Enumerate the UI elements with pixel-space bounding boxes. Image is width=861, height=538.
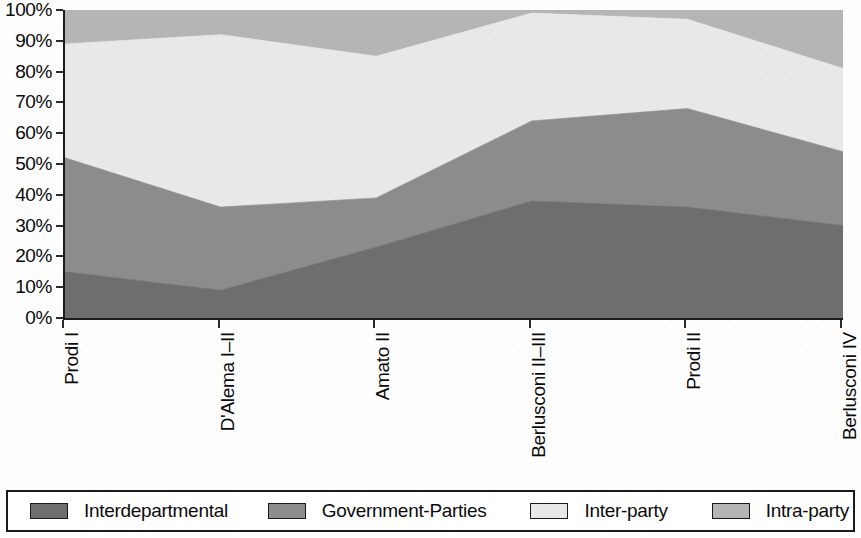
x-axis-tick-label: Berlusconi IV (833, 332, 855, 440)
stacked-area-chart: 0%10%20%30%40%50%60%70%80%90%100% Prodi … (0, 0, 861, 485)
x-axis-tick-mark (529, 320, 531, 328)
y-axis-tick-label: 30% (15, 215, 52, 237)
y-axis-tick-label: 100% (5, 0, 52, 21)
y-axis-tick-label: 10% (15, 276, 52, 298)
y-axis-tick-mark (56, 163, 63, 165)
y-axis-tick-label: 70% (15, 91, 52, 113)
x-axis-tick-mark (840, 320, 842, 328)
legend-label: Inter-party (584, 500, 667, 522)
x-axis-tick-label-text: Amato II (372, 332, 394, 400)
legend-swatch-icon (712, 503, 750, 519)
x-axis-tick-label: Berlusconi II–III (522, 332, 544, 458)
x-axis-tick-mark (373, 320, 375, 328)
y-axis-tick-mark (56, 194, 63, 196)
y-axis-tick-mark (56, 317, 63, 319)
x-axis-tick-mark (684, 320, 686, 328)
legend-label: Interdepartmental (84, 500, 228, 522)
y-axis-tick-label: 80% (15, 61, 52, 83)
x-axis-tick-label-text: Prodi I (61, 332, 83, 385)
y-axis-tick-mark (56, 9, 63, 11)
y-axis-tick-label: 50% (15, 153, 52, 175)
x-axis-tick-label: Prodi II (677, 332, 699, 390)
x-axis-tick-mark (62, 320, 64, 328)
x-axis-tick-label-text: Berlusconi IV (839, 332, 861, 440)
area-series-svg (65, 10, 843, 318)
y-axis: 0%10%20%30%40%50%60%70%80%90%100% (0, 0, 62, 330)
y-axis-tick-label: 0% (25, 307, 52, 329)
x-axis-tick-label-text: Berlusconi II–III (528, 332, 550, 458)
legend-label: Government-Parties (322, 500, 487, 522)
legend-swatch-icon (268, 503, 306, 519)
legend-item-interdepartmental[interactable]: Interdepartmental (30, 500, 228, 522)
y-axis-tick-label: 40% (15, 184, 52, 206)
chart-legend: InterdepartmentalGovernment-PartiesInter… (6, 490, 855, 532)
legend-label: Intra-party (766, 500, 849, 522)
x-axis-tick-label: Prodi I (55, 332, 77, 385)
legend-swatch-icon (30, 503, 68, 519)
legend-swatch-icon (530, 503, 568, 519)
legend-item-inter-party[interactable]: Inter-party (530, 500, 667, 522)
plot-area (63, 10, 843, 320)
y-axis-tick-mark (56, 225, 63, 227)
y-axis-tick-mark (56, 286, 63, 288)
y-axis-tick-mark (56, 40, 63, 42)
y-axis-tick-label: 60% (15, 122, 52, 144)
y-axis-tick-mark (56, 71, 63, 73)
chart-page: 0%10%20%30%40%50%60%70%80%90%100% Prodi … (0, 0, 861, 538)
x-axis-tick-label-text: D'Alema I–II (217, 332, 239, 431)
y-axis-tick-mark (56, 132, 63, 134)
x-axis-tick-label: Amato II (366, 332, 388, 400)
y-axis-tick-label: 20% (15, 245, 52, 267)
legend-item-intra-party[interactable]: Intra-party (712, 500, 849, 522)
legend-item-government-parties[interactable]: Government-Parties (268, 500, 487, 522)
x-axis-tick-label-text: Prodi II (683, 332, 705, 390)
y-axis-tick-mark (56, 255, 63, 257)
y-axis-tick-label: 90% (15, 30, 52, 52)
x-axis-tick-mark (218, 320, 220, 328)
x-axis-tick-label: D'Alema I–II (211, 332, 233, 431)
y-axis-tick-mark (56, 101, 63, 103)
